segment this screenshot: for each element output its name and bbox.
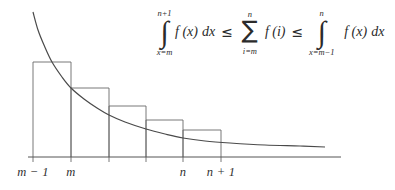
relation-symbol-1: ≤ <box>216 24 238 40</box>
rectangle-bar <box>109 106 146 157</box>
rectangle-bar <box>33 62 71 157</box>
right-integrand: f (x) <box>341 24 368 40</box>
integral-sign-icon: ∫ <box>317 19 327 45</box>
left-integral-lower-limit: x=m <box>157 48 173 57</box>
right-differential: dx <box>368 24 385 40</box>
rectangle-bar <box>146 120 183 157</box>
rectangle-bar <box>71 88 109 157</box>
relation-symbol-2: ≤ <box>287 24 309 40</box>
x-axis-tick-label: n + 1 <box>207 165 236 180</box>
right-integral-symbol: n ∫ x=m−1 <box>315 18 328 46</box>
x-axis-tick-label: n <box>180 165 187 180</box>
left-integrand: f (x) <box>172 24 199 40</box>
axis-ticks-group <box>33 157 221 162</box>
sum-lower-limit: i=m <box>243 47 257 56</box>
left-integral-symbol: n+1 ∫ x=m <box>158 18 171 46</box>
summand: f (i) <box>262 24 287 40</box>
x-axis-tick-label: m <box>66 165 75 180</box>
x-axis-tick-label: m − 1 <box>17 165 48 180</box>
summation-symbol: n ∑ i=m <box>239 19 261 45</box>
right-integral-lower-limit: x=m−1 <box>309 48 335 57</box>
rectangle-bar <box>183 130 221 157</box>
inequality-formula: n+1 ∫ x=m f (x) dx ≤ n ∑ i=m f (i) ≤ n ∫… <box>157 18 385 46</box>
sigma-sign-icon: ∑ <box>242 20 258 42</box>
integral-test-figure: m − 1mnn + 1 n+1 ∫ x=m f (x) dx ≤ n ∑ i=… <box>0 0 395 190</box>
left-differential: dx <box>199 24 216 40</box>
integral-sign-icon: ∫ <box>159 19 169 45</box>
